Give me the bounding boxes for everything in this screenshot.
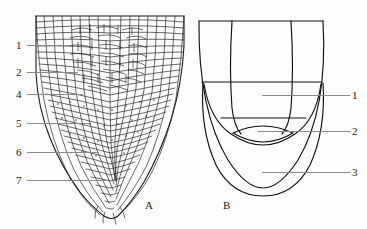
inner-file-right — [282, 21, 293, 134]
label-a-4: 4 — [16, 89, 22, 100]
label-a-1: 1 — [16, 40, 22, 51]
outer-u-curve — [199, 21, 324, 188]
label-b-3: 3 — [352, 167, 358, 178]
panel-a-letter: A — [145, 200, 153, 211]
panel-b-letter: B — [223, 200, 230, 211]
label-a-6: 6 — [16, 147, 22, 158]
label-a-5: 5 — [16, 118, 22, 129]
panel-b-schematic — [0, 0, 367, 229]
label-a-2: 2 — [16, 67, 22, 78]
leader-a-7 — [27, 180, 107, 181]
label-a-7: 7 — [16, 175, 22, 186]
leader-a-4 — [27, 94, 83, 95]
leader-a-6 — [27, 152, 99, 153]
zone2-arc — [204, 84, 321, 145]
leader-a-2 — [27, 72, 78, 73]
label-b-1: 1 — [352, 90, 358, 101]
leader-a-5 — [27, 123, 90, 124]
root-tip-figure: 1 2 4 5 6 7 1 2 3 A B — [0, 0, 367, 229]
label-b-2: 2 — [352, 126, 358, 137]
leader-b-2 — [258, 131, 350, 132]
inner-file-left — [231, 21, 242, 134]
root-cap-u-curve — [203, 83, 324, 196]
leader-b-3 — [262, 172, 350, 173]
leader-a-1 — [27, 45, 71, 46]
quiescent-centre-lens — [233, 126, 293, 142]
leader-b-1 — [262, 95, 350, 96]
